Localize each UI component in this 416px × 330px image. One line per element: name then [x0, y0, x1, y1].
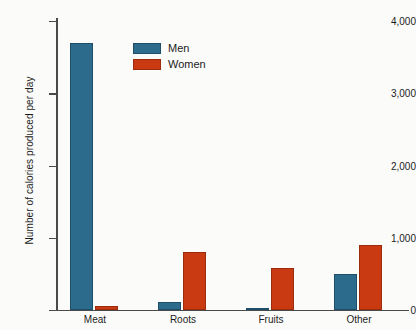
y-axis-tick [49, 310, 57, 311]
legend-label-men: Men [168, 43, 189, 54]
x-axis-label-other: Other [346, 314, 371, 325]
x-axis-label-roots: Roots [170, 314, 196, 325]
bar-meat-men [70, 43, 93, 310]
y-axis-tick [49, 166, 57, 167]
plot-area [57, 21, 409, 310]
legend-swatch-men-icon [133, 43, 161, 54]
x-axis-label-meat: Meat [84, 314, 106, 325]
chart-legend: Men Women [133, 41, 206, 73]
x-axis-label-fruits: Fruits [258, 314, 283, 325]
bar-meat-women [95, 306, 118, 310]
y-axis-tick [49, 93, 57, 94]
legend-label-women: Women [168, 59, 206, 70]
legend-item-women: Women [133, 57, 206, 71]
bar-fruits-men [246, 308, 269, 310]
legend-swatch-women-icon [133, 59, 161, 70]
bar-chart: Number of calories produced per day 01,0… [0, 0, 416, 330]
y-axis-title: Number of calories produced per day [24, 36, 35, 286]
y-axis-tick [49, 238, 57, 239]
legend-item-men: Men [133, 41, 206, 55]
y-axis-tick [49, 21, 57, 22]
bar-roots-women [183, 252, 206, 310]
bar-other-men [334, 274, 357, 310]
bar-other-women [359, 245, 382, 310]
bar-roots-men [158, 302, 181, 310]
bar-fruits-women [271, 268, 294, 310]
